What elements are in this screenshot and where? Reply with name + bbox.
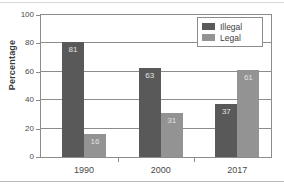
- x-tick-mark: [118, 158, 119, 162]
- legend-item-label: Legal: [220, 33, 241, 43]
- bar: 16: [84, 134, 106, 157]
- bar-value-label: 63: [139, 71, 161, 80]
- y-tick-label: 40: [4, 96, 34, 104]
- bar: 37: [215, 104, 237, 157]
- bar-value-label: 61: [237, 73, 259, 82]
- legend-item-label: Illegal: [220, 22, 242, 32]
- bar-chart-figure: Percentage 020406080100 199020002017 811…: [0, 0, 284, 191]
- legend-swatch-icon: [202, 23, 215, 30]
- x-tick-mark: [194, 158, 195, 162]
- bar: 63: [139, 68, 161, 157]
- y-tick-label: 100: [4, 11, 34, 19]
- bar: 61: [237, 70, 259, 157]
- bar-value-label: 37: [215, 107, 237, 116]
- y-tick-label: 0: [4, 153, 34, 161]
- bar-value-label: 31: [161, 116, 183, 125]
- page-rule-top: [0, 2, 284, 3]
- legend-item: Illegal: [202, 21, 258, 32]
- y-tick-label: 60: [4, 68, 34, 76]
- x-tick-label: 2000: [138, 165, 184, 175]
- bar: 31: [161, 113, 183, 157]
- chart-legend: IllegalLegal: [197, 17, 263, 47]
- legend-item: Legal: [202, 32, 258, 43]
- y-tick-label: 80: [4, 39, 34, 47]
- bar: 81: [62, 42, 84, 157]
- bar-value-label: 81: [62, 45, 84, 54]
- x-tick-label: 2017: [214, 165, 260, 175]
- legend-swatch-icon: [202, 34, 215, 41]
- bar-value-label: 16: [84, 137, 106, 146]
- y-tick-label: 20: [4, 125, 34, 133]
- page-rule-bottom: [0, 181, 284, 182]
- x-tick-label: 1990: [61, 165, 107, 175]
